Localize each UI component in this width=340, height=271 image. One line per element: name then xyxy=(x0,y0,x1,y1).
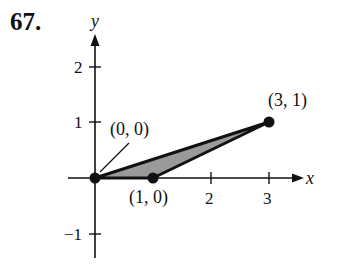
label-point-0-0: (0, 0) xyxy=(110,119,149,140)
label-point-3-1: (3, 1) xyxy=(268,90,307,111)
point-0-0 xyxy=(90,173,101,184)
x-tick-label-2: 2 xyxy=(205,189,214,208)
point-1-0 xyxy=(148,173,159,184)
y-tick-label-neg1: −1 xyxy=(64,225,82,244)
y-tick-label-2: 2 xyxy=(74,58,83,77)
y-tick-label-1: 1 xyxy=(74,113,83,132)
x-axis-arrow-icon xyxy=(292,174,304,183)
x-tick-label-3: 3 xyxy=(263,189,272,208)
triangle-diagram: x y 2 3 2 1 −1 (0, 0) (1, 0) (3, 1) xyxy=(0,0,340,271)
x-axis-label: x xyxy=(305,168,314,188)
y-axis-label: y xyxy=(89,11,99,31)
point-3-1 xyxy=(264,117,275,128)
label-point-1-0: (1, 0) xyxy=(129,187,168,208)
y-axis-arrow-icon xyxy=(91,34,100,46)
